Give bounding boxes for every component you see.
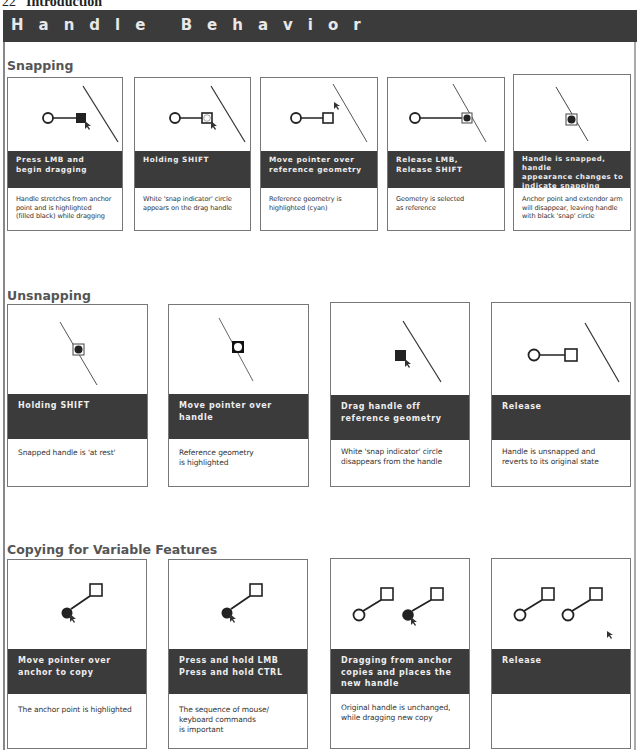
step-label: Press and hold LMB Press and hold CTRL (169, 649, 307, 694)
step-description: Reference geometry is highlighted (179, 448, 303, 468)
pointer-icon (230, 614, 236, 623)
handle-original-figure (492, 303, 631, 395)
step-description: Handle stretches from anchor point and i… (16, 195, 117, 221)
step-label: Drag handle off reference geometry (331, 395, 469, 440)
handle-dragged-off-figure (331, 303, 470, 395)
step-label: Release (492, 395, 630, 440)
step-label: Move pointer over handle (169, 394, 308, 439)
step-description: Geometry is selected as reference (396, 195, 499, 212)
step-card: Release LMB, Release SHIFT Geometry is s… (387, 77, 505, 231)
step-label: Dragging from anchor copies and places t… (331, 649, 469, 694)
step-label: Holding SHIFT (8, 394, 147, 439)
step-description: Anchor point and extendor arm will disap… (522, 195, 625, 221)
step-card: Press and hold LMB Press and hold CTRL T… (168, 559, 308, 749)
copy-released-figure (492, 559, 631, 649)
anchor-hover-figure (169, 560, 308, 650)
step-card: Release (491, 558, 631, 749)
copy-dragging-figure (331, 559, 470, 649)
pointer-icon (70, 614, 76, 623)
step-description: Reference geometry is highlighted (cyan) (269, 195, 372, 212)
pointer-over-geometry-figure (261, 78, 378, 151)
section-title-snapping: Snapping (7, 58, 73, 73)
page-number: 22 (2, 0, 16, 9)
handle-snap-indicator-figure (135, 78, 251, 151)
page-title: Handle Behavior (11, 16, 376, 34)
step-card: Dragging from anchor copies and places t… (330, 558, 470, 749)
section-title-copying: Copying for Variable Features (7, 542, 217, 557)
pointer-icon (211, 121, 217, 130)
step-description: White 'snap indicator' circle disappears… (341, 447, 464, 467)
step-description: White 'snap indicator' circle appears on… (143, 195, 245, 212)
pointer-icon (405, 359, 411, 368)
step-description: Snapped handle is 'at rest' (18, 448, 142, 458)
step-label: Move pointer over anchor to copy (8, 649, 146, 694)
pointer-icon (411, 617, 417, 626)
step-label: Release (492, 649, 630, 694)
snapped-handle-figure (8, 305, 148, 395)
title-bar: Handle Behavior (3, 10, 637, 42)
section-title-unsnapping: Unsnapping (7, 288, 91, 303)
step-description: Original handle is unchanged, while drag… (341, 703, 464, 723)
pointer-icon (607, 631, 613, 639)
step-card: Move pointer over anchor to copy The anc… (7, 559, 147, 749)
step-card: Release Handle is unsnapped and reverts … (491, 302, 631, 487)
step-description: Handle is unsnapped and reverts to its o… (502, 447, 625, 467)
step-card: Drag handle off reference geometry White… (330, 302, 470, 487)
handle-filled-drag-figure (8, 78, 123, 151)
snapped-handle-hover-figure (169, 305, 309, 395)
step-description: The anchor point is highlighted (18, 705, 141, 715)
step-card: Holding SHIFT Snapped handle is 'at rest… (7, 304, 148, 487)
step-label: Move pointer over reference geometry (261, 151, 377, 188)
step-label: Release LMB, Release SHIFT (388, 151, 504, 188)
chapter-title: Introduction (26, 0, 102, 9)
step-card: Move pointer over handle Reference geome… (168, 304, 309, 487)
step-card: Press LMB and begin dragging Handle stre… (7, 77, 123, 231)
step-card: Move pointer over reference geometry Ref… (260, 77, 378, 231)
page-header: 22Introduction (2, 0, 102, 10)
step-card: Handle is snapped, handle appearance cha… (513, 74, 631, 231)
snapped-handle-figure (514, 75, 631, 151)
pointer-icon (85, 121, 91, 130)
step-label: Holding SHIFT (135, 151, 250, 188)
step-description: The sequence of mouse/ keyboard commands… (179, 705, 302, 735)
handle-on-geometry-figure (388, 78, 505, 151)
step-card: Holding SHIFT White 'snap indicator' cir… (134, 77, 251, 231)
step-label: Handle is snapped, handle appearance cha… (514, 151, 630, 188)
anchor-hover-figure (8, 560, 147, 650)
pointer-icon (334, 102, 340, 110)
step-label: Press LMB and begin dragging (8, 151, 122, 188)
